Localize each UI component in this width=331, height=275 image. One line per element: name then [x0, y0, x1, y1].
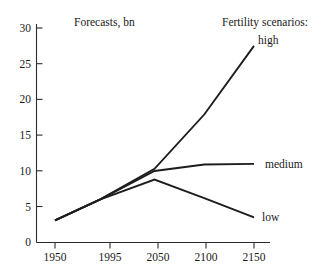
series-line-high — [55, 46, 254, 220]
y-tick-label-20: 20 — [20, 93, 32, 105]
x-tick-label-2050: 2050 — [147, 251, 170, 263]
x-tick-label-1950: 1950 — [44, 251, 67, 263]
legend-heading: Fertility scenarios: — [222, 16, 308, 29]
series-label-medium: medium — [265, 158, 303, 170]
chart-title: Forecasts, bn — [74, 16, 135, 29]
y-tick-label-30: 30 — [20, 22, 32, 34]
series-line-medium — [55, 164, 254, 220]
y-tick-label-25: 25 — [20, 58, 32, 70]
x-tick-label-1995: 1995 — [99, 251, 122, 263]
y-tick-label-5: 5 — [25, 201, 31, 213]
x-tick-label-2100: 2100 — [195, 251, 218, 263]
chart-container: 30 25 20 15 10 5 0 1950 1995 2050 2100 2… — [0, 0, 331, 275]
series-line-low — [55, 180, 254, 221]
series-label-high: high — [258, 34, 279, 47]
x-tick-label-2150: 2150 — [243, 251, 266, 263]
y-tick-label-15: 15 — [20, 129, 32, 141]
y-tick-label-10: 10 — [20, 165, 32, 177]
series-label-low: low — [262, 211, 280, 223]
y-tick-label-0: 0 — [25, 236, 31, 248]
line-chart: 30 25 20 15 10 5 0 1950 1995 2050 2100 2… — [0, 0, 331, 275]
